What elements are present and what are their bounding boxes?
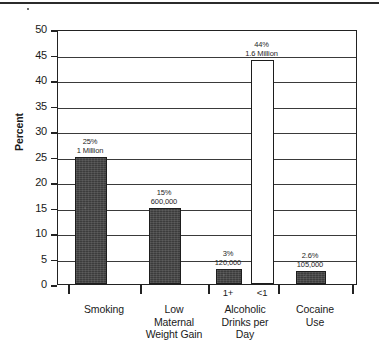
bar-percent-label: 15% [132, 188, 196, 197]
category-label-line: Day [201, 328, 289, 341]
y-axis-tick-mark [51, 285, 57, 287]
bar-count-label: 1 Million [58, 146, 122, 155]
gridline [58, 57, 356, 58]
category-label: CocaineUse [271, 303, 359, 328]
y-axis-tick-label: 5 [13, 253, 47, 265]
bar-value-label: 2.6%105,000 [278, 251, 342, 269]
scan-top-rule [0, 2, 379, 4]
bar-value-label: 44%1.6 Million [230, 40, 294, 58]
bar-sublabel: <1 [242, 287, 282, 298]
bar-value-label: 15%600,000 [132, 188, 196, 206]
bar-percent-label: 44% [230, 40, 294, 49]
bar-value-label: 25%1 Million [58, 137, 122, 155]
gridline [58, 108, 356, 109]
scan-artifact-dot [27, 8, 29, 10]
x-axis-tick-mark [140, 285, 142, 294]
bar-value-label: 3%120,000 [196, 249, 260, 267]
bar-percent-label: 2.6% [278, 251, 342, 260]
y-axis-tick-label: 15 [13, 202, 47, 214]
y-axis-tick-label: 35 [13, 100, 47, 112]
bar-count-label: 1.6 Million [230, 49, 294, 58]
x-axis-tick-mark [352, 285, 354, 294]
bar-count-label: 120,000 [196, 258, 260, 267]
bar [149, 208, 181, 285]
chart-page: Percent 50454035302520151050 25%1 Millio… [0, 0, 379, 357]
y-axis-tick-label: 0 [13, 278, 47, 290]
bar [216, 269, 242, 284]
category-label-line: Use [271, 316, 359, 329]
bar [75, 157, 107, 285]
bar-percent-label: 3% [196, 249, 260, 258]
category-label-line: Cocaine [271, 303, 359, 316]
gridline [58, 133, 356, 134]
y-axis-tick-label: 40 [13, 74, 47, 86]
plot-area [57, 30, 357, 285]
bar-percent-label: 25% [58, 137, 122, 146]
y-axis-tick-label: 50 [13, 23, 47, 35]
bar [296, 271, 326, 284]
y-axis-tick-label: 30 [13, 125, 47, 137]
y-axis-tick-label: 10 [13, 227, 47, 239]
y-axis-tick-label: 20 [13, 176, 47, 188]
x-axis-tick-mark [68, 285, 70, 294]
gridline [58, 82, 356, 83]
bar-count-label: 105,000 [278, 260, 342, 269]
bar-count-label: 600,000 [132, 197, 196, 206]
y-axis-tick-label: 25 [13, 151, 47, 163]
y-axis-tick-label: 45 [13, 49, 47, 61]
